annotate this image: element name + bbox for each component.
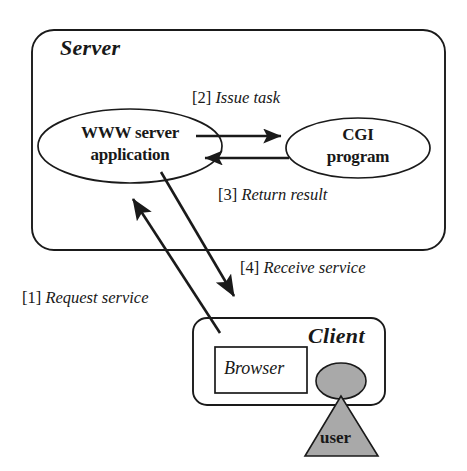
user-head bbox=[316, 363, 366, 399]
user-label: user bbox=[320, 429, 351, 447]
cgi-label-line1: CGI bbox=[308, 126, 408, 144]
step-2-tag: [2] bbox=[192, 88, 211, 107]
step-label-3: [3] Return result bbox=[218, 186, 327, 204]
browser-label: Browser bbox=[224, 359, 284, 378]
step-3-text: Return result bbox=[241, 185, 327, 204]
step-4-tag: [4] bbox=[240, 258, 259, 277]
client-title: Client bbox=[308, 324, 365, 348]
www-server-label-line2: application bbox=[56, 146, 204, 164]
arrow-request-service bbox=[133, 199, 220, 333]
step-4-text: Receive service bbox=[263, 258, 365, 277]
step-label-4: [4] Receive service bbox=[240, 259, 366, 277]
diagram-canvas: Server Client WWW server application CGI… bbox=[0, 0, 467, 471]
www-server-label-line1: WWW server bbox=[56, 124, 204, 142]
step-2-text: Issue task bbox=[215, 88, 280, 107]
cgi-label-line2: program bbox=[308, 148, 408, 166]
server-title: Server bbox=[60, 36, 120, 60]
step-label-2: [2] Issue task bbox=[192, 89, 280, 107]
diagram-vector-layer bbox=[0, 0, 467, 471]
step-1-tag: [1] bbox=[22, 288, 41, 307]
step-label-1: [1] Request service bbox=[22, 289, 148, 307]
step-1-text: Request service bbox=[45, 288, 148, 307]
step-3-tag: [3] bbox=[218, 185, 237, 204]
